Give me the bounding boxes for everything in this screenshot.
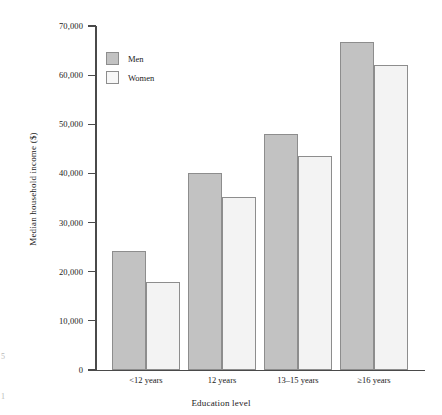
bar-women-3 — [374, 65, 408, 370]
bar-men-3 — [340, 42, 374, 370]
bar-women-0 — [146, 282, 180, 370]
category-label-3: ≥16 years — [357, 375, 390, 385]
bar-men-0 — [112, 251, 146, 370]
legend-item-women: Women — [106, 68, 154, 87]
legend-item-men: Men — [106, 49, 154, 68]
margin-artifact-bottom: 1 — [1, 392, 5, 401]
legend-swatch-men-icon — [106, 52, 119, 65]
margin-artifact-top: 5 — [1, 352, 5, 361]
x-axis-title: Education level — [0, 398, 442, 408]
category-label-1: 12 years — [208, 375, 237, 385]
bars-layer — [0, 0, 442, 415]
bar-women-1 — [222, 197, 256, 370]
chart-legend: Men Women — [106, 49, 154, 87]
y-axis-title: Median household income ($) — [28, 99, 38, 279]
bar-men-2 — [264, 134, 298, 370]
legend-swatch-women-icon — [106, 71, 119, 84]
bar-women-2 — [298, 156, 332, 370]
legend-label-men: Men — [128, 54, 144, 64]
category-label-2: 13–15 years — [277, 375, 318, 385]
bar-men-1 — [188, 173, 222, 370]
legend-label-women: Women — [128, 73, 154, 83]
category-label-0: <12 years — [129, 375, 162, 385]
bar-chart-figure: 010,00020,00030,00040,00050,00060,00070,… — [0, 0, 442, 415]
